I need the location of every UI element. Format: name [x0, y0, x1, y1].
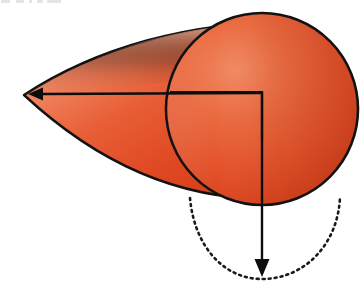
cone-axis-arrow-shaft — [43, 93, 262, 94]
diagram-canvas — [0, 0, 361, 290]
cone-diagram-figure — [0, 0, 361, 290]
base-radius-arrowhead — [255, 259, 270, 277]
